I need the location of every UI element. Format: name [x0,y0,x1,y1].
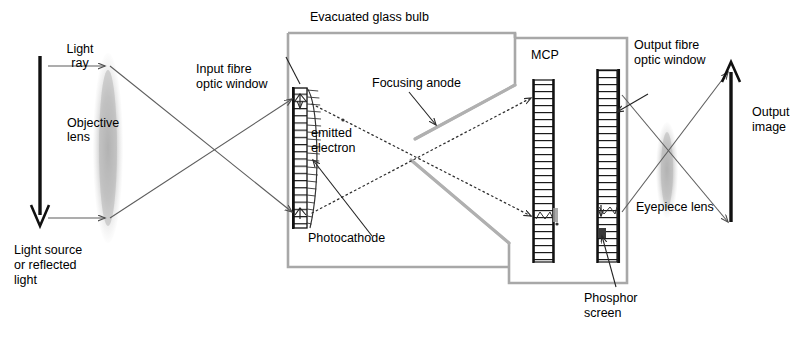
diagram-canvas: Evacuated glass bulb Light ray Objective… [0,0,811,338]
label-evacuated-glass-bulb: Evacuated glass bulb [310,10,429,25]
leader-photocathode [313,160,372,236]
label-input-window-line1: Input fibre [196,62,252,77]
label-photocathode: Photocathode [308,231,385,246]
label-input-window-line2: optic window [196,77,268,92]
label-light-ray-line2: ray [55,56,105,71]
label-light-source-line2: or reflected [14,258,77,273]
label-objective-lens-line2: lens [67,130,90,145]
light-source-arrow [31,56,49,226]
evacuated-glass-bulb-outline [288,33,627,283]
leader-lines [286,57,648,287]
label-phosphor-screen-line2: screen [584,306,622,321]
label-light-ray-line1: Light [55,42,105,57]
output-image-arrow [722,62,740,222]
focusing-anode-electrode [411,85,515,243]
label-output-window-line1: Output fibre [634,38,699,53]
leader-focusing-anode [409,92,436,125]
label-mcp: MCP [531,48,559,63]
label-emitted-electron-line2: electron [311,141,355,156]
label-phosphor-screen-line1: Phosphor [584,291,638,306]
leader-output-window [617,94,648,112]
label-objective-lens-line1: Objective [67,116,119,131]
label-light-source-line1: Light source [14,243,82,258]
label-light-source-line3: light [14,273,37,288]
mcp-plate [533,79,558,263]
label-focusing-anode: Focusing anode [372,76,461,91]
label-emitted-electron-line1: emitted [311,126,352,141]
label-output-image-line2: image [752,120,786,135]
label-eyepiece-lens: Eyepiece lens [636,200,714,215]
photocathode-layer [307,88,321,228]
label-output-image-line1: Output [752,105,790,120]
label-output-window-line2: optic window [634,53,706,68]
objective-lens [93,53,123,243]
